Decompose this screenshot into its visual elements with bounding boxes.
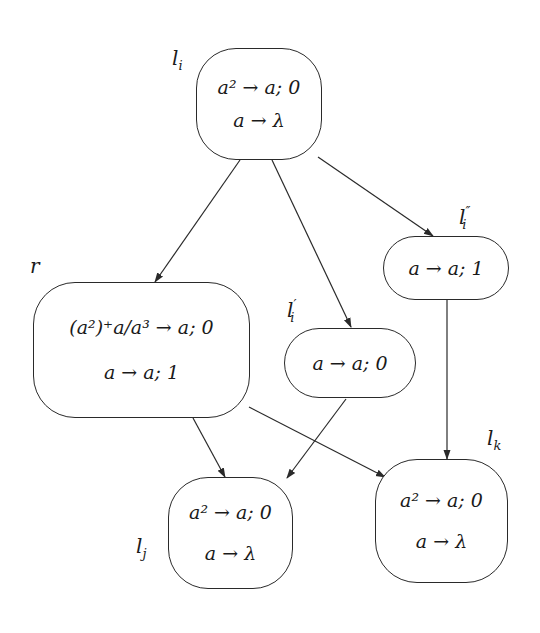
node-label-li-dprime: l″i xyxy=(459,205,466,231)
edge-li-prime-to-lj xyxy=(287,399,346,478)
edge-r-to-lj xyxy=(193,418,225,477)
edge-li-to-r xyxy=(155,160,240,282)
label-subscript: k xyxy=(493,438,501,453)
node-li-prime: a → a; 0 xyxy=(284,328,416,398)
label-subscript: j xyxy=(142,546,146,561)
label-subscript: i xyxy=(290,310,294,325)
node-li-dprime: a → a; 1 xyxy=(383,236,509,300)
rule: a² → a; 0 xyxy=(218,78,301,97)
node-label-lk: lk xyxy=(487,428,501,452)
rule: a → a; 0 xyxy=(312,354,387,373)
node-lk: a² → a; 0 a → λ xyxy=(375,459,508,583)
label-prime: ″ xyxy=(465,204,470,219)
edge-li-to-li-dprime xyxy=(318,157,433,236)
rule: a → a; 1 xyxy=(408,259,483,278)
rule: a → λ xyxy=(416,532,467,551)
rule: (a²)⁺a/a³ → a; 0 xyxy=(69,318,213,337)
label-text: r xyxy=(30,254,40,278)
node-label-r: r xyxy=(30,256,40,276)
rule: a → λ xyxy=(205,544,256,563)
node-label-li-prime: l′i xyxy=(287,298,295,324)
edge-r-to-lk xyxy=(249,407,385,477)
rule: a → λ xyxy=(233,111,284,130)
rule: a² → a; 0 xyxy=(400,491,483,510)
node-label-li: li xyxy=(172,48,183,72)
node-lj: a² → a; 0 a → λ xyxy=(168,477,293,589)
node-r: (a²)⁺a/a³ → a; 0 a → a; 1 xyxy=(33,282,250,418)
label-subscript: i xyxy=(462,217,466,232)
rule: a → a; 1 xyxy=(104,363,179,382)
label-subscript: i xyxy=(178,58,182,73)
node-li: a² → a; 0 a → λ xyxy=(196,48,322,160)
node-label-lj: lj xyxy=(136,536,146,560)
edge-li-to-li-prime xyxy=(272,160,351,327)
rule: a² → a; 0 xyxy=(189,503,272,522)
